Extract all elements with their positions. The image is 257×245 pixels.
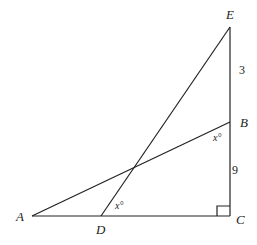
point-label-b: B (240, 115, 248, 130)
point-label-e: E (225, 7, 234, 22)
point-label-d: D (95, 222, 106, 237)
segment-de (101, 27, 230, 216)
point-label-c: C (236, 212, 245, 227)
geometry-diagram: E B C A D 3 9 x° x° (0, 0, 257, 245)
segment-ab (32, 122, 230, 216)
point-label-a: A (15, 209, 24, 224)
length-label-bc: 9 (232, 163, 238, 177)
angle-label-b: x° (212, 132, 221, 143)
right-angle-marker (217, 206, 230, 216)
angle-label-d: x° (114, 200, 123, 211)
length-label-eb: 3 (239, 63, 245, 77)
